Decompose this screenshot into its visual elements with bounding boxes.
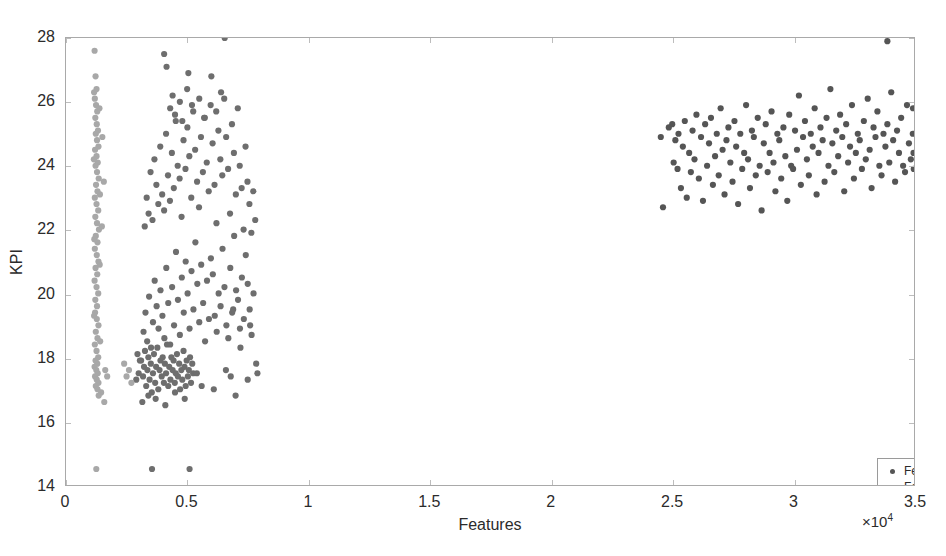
data-point (248, 230, 254, 236)
data-point (737, 131, 743, 137)
data-point (94, 121, 100, 127)
data-point (678, 185, 684, 191)
data-point (910, 131, 914, 137)
data-point (806, 172, 812, 178)
data-point (148, 361, 154, 367)
data-point (239, 185, 245, 191)
data-point (102, 367, 108, 373)
data-point (95, 290, 101, 296)
data-point (896, 150, 902, 156)
x-axis-tick-top (66, 38, 67, 43)
data-point (693, 112, 699, 118)
data-point (192, 239, 198, 245)
data-point (177, 99, 183, 105)
data-point (167, 198, 173, 204)
data-point (755, 115, 761, 121)
plot-area: Feature 4 Feature 5 Feature 6 (65, 37, 915, 486)
data-point (183, 383, 189, 389)
data-point (192, 147, 198, 153)
data-point (688, 169, 694, 175)
data-point (171, 322, 177, 328)
data-point (867, 147, 873, 153)
data-point (97, 338, 103, 344)
data-point (782, 153, 788, 159)
data-point (153, 396, 159, 402)
data-point (733, 143, 739, 149)
data-point (91, 236, 97, 242)
data-point (165, 300, 171, 306)
data-point (159, 191, 165, 197)
data-point (167, 341, 173, 347)
y-tick-label: 16 (3, 414, 55, 430)
data-point (849, 102, 855, 108)
data-point (91, 89, 97, 95)
data-point (94, 303, 100, 309)
data-point (165, 383, 171, 389)
data-point (140, 329, 146, 335)
data-point (246, 201, 252, 207)
data-point (160, 354, 166, 360)
data-point (149, 217, 155, 223)
data-point (93, 201, 99, 207)
data-point (729, 179, 735, 185)
data-point (689, 128, 695, 134)
data-point (93, 131, 99, 137)
x-tick-label: 2.5 (642, 494, 702, 510)
data-point (152, 380, 158, 386)
data-point (233, 393, 239, 399)
data-point (829, 140, 835, 146)
data-point (700, 198, 706, 204)
data-point (91, 278, 97, 284)
data-point (763, 121, 769, 127)
data-point (880, 131, 886, 137)
data-point (183, 258, 189, 264)
data-point (170, 92, 176, 98)
data-point (99, 223, 105, 229)
data-point (674, 166, 680, 172)
data-point (247, 306, 253, 312)
data-point (231, 150, 237, 156)
legend: Feature 4 Feature 5 Feature 6 (877, 458, 915, 486)
y-tick-label: 24 (3, 157, 55, 173)
data-point (229, 121, 235, 127)
data-point (802, 118, 808, 124)
x-axis-exponent-power: 4 (887, 512, 893, 523)
data-point (218, 89, 224, 95)
data-point (814, 191, 820, 197)
x-axis-tick (66, 480, 67, 485)
data-point (186, 466, 192, 472)
data-point (214, 329, 220, 335)
data-point (660, 204, 666, 210)
y-axis-tick-right (909, 38, 914, 39)
x-tick-label: 1.5 (399, 494, 459, 510)
data-point (882, 143, 888, 149)
data-point (93, 182, 99, 188)
data-point (196, 319, 202, 325)
x-axis-tick-top (430, 38, 431, 43)
data-point (210, 271, 216, 277)
data-point (745, 156, 751, 162)
data-point (794, 147, 800, 153)
data-point (827, 86, 833, 92)
data-point (223, 322, 229, 328)
data-point (169, 284, 175, 290)
data-point (187, 354, 193, 360)
data-point (92, 246, 98, 252)
data-point (208, 73, 214, 79)
data-point (156, 367, 162, 373)
data-point (93, 466, 99, 472)
data-point (792, 128, 798, 134)
data-point (233, 287, 239, 293)
data-point (684, 195, 690, 201)
data-point (796, 92, 802, 98)
data-point (820, 137, 826, 143)
data-point (870, 124, 876, 130)
data-point (213, 108, 219, 114)
data-point (245, 281, 251, 287)
y-axis-tick (66, 102, 71, 103)
data-point (93, 329, 99, 335)
data-point (180, 348, 186, 354)
data-point (96, 105, 102, 111)
data-point (223, 134, 229, 140)
data-point (714, 131, 720, 137)
